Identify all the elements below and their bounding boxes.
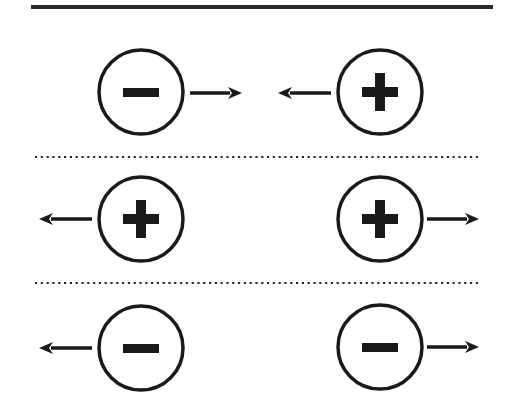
- minus-icon: [123, 88, 159, 97]
- minus-icon: [123, 344, 159, 353]
- diagram-canvas: Electric charge interactions: opposite c…: [0, 0, 507, 419]
- charge-interaction-diagram: Electric charge interactions: opposite c…: [0, 0, 507, 419]
- background: [0, 0, 507, 419]
- minus-icon: [362, 343, 398, 352]
